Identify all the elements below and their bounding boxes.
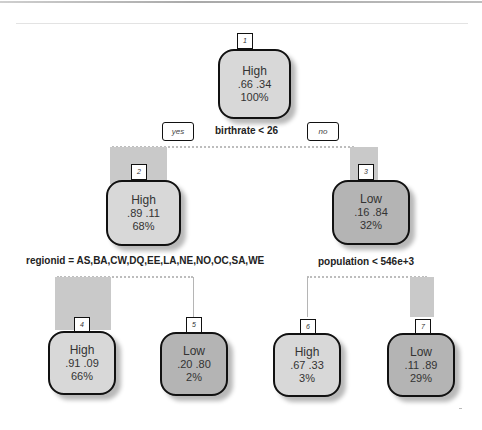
node-id-tag-1: 1 — [237, 33, 253, 49]
node-probs: .91 .09 — [65, 357, 99, 370]
node-probs: .66 .34 — [238, 78, 272, 91]
node-percent: 68% — [132, 220, 154, 233]
node-id-tag-3: 3 — [358, 164, 374, 180]
node-probs: .16 .84 — [354, 206, 388, 219]
tree-node-5[interactable]: Low .20 .80 2% — [160, 332, 228, 396]
split-rule-left: regionid = AS,BA,CW,DQ,EE,LA,NE,NO,OC,SA… — [26, 255, 264, 266]
node-percent: 29% — [410, 372, 432, 385]
node-class: Low — [360, 193, 382, 206]
tree-node-7[interactable]: Low .11 .89 29% — [387, 333, 455, 397]
tree-node-2[interactable]: High .89 .11 68% — [106, 180, 181, 246]
node-class: Low — [183, 345, 205, 358]
split-rule-right: population < 546e+3 — [318, 256, 414, 267]
node-class: High — [131, 194, 156, 207]
node-probs: .11 .89 — [405, 359, 438, 372]
no-label: no — [307, 122, 339, 141]
node-class: High — [295, 346, 320, 359]
node-class: High — [70, 344, 95, 357]
node-percent: 100% — [240, 91, 268, 104]
node-percent: 32% — [360, 219, 382, 232]
node-probs: .67 .33 — [290, 359, 324, 372]
node-id-tag-5: 5 — [186, 317, 202, 333]
tree-node-1[interactable]: High .66 .34 100% — [218, 49, 291, 119]
node-id-tag-2: 2 — [131, 164, 147, 180]
node-class: Low — [410, 346, 432, 359]
yes-label: yes — [162, 122, 194, 141]
split-rule-root: birthrate < 26 — [215, 125, 278, 136]
top-border-line — [0, 1, 482, 3]
top-divider-line — [16, 23, 468, 24]
node-probs: .89 .11 — [127, 207, 160, 220]
decision-tree-plot: 1 High .66 .34 100% yes birthrate < 26 n… — [0, 0, 482, 430]
node-percent: 2% — [186, 371, 202, 384]
corner-mark — [459, 408, 462, 409]
tree-node-6[interactable]: High .67 .33 3% — [273, 333, 341, 397]
node-percent: 3% — [299, 372, 315, 385]
right-branch-connector — [307, 276, 427, 278]
branch-line-node-6 — [307, 277, 308, 317]
node-percent: 66% — [71, 370, 93, 383]
branch-line-node-5 — [193, 277, 194, 317]
branch-bar-node-7 — [410, 277, 434, 317]
node-probs: .20 .80 — [177, 358, 211, 371]
tree-node-4[interactable]: High .91 .09 66% — [48, 331, 116, 395]
tree-node-3[interactable]: Low .16 .84 32% — [332, 180, 410, 245]
node-class: High — [242, 65, 267, 78]
